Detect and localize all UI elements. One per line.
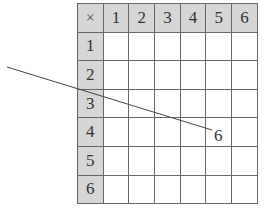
annotation-leader-line <box>0 0 269 216</box>
annotation-label: 6 <box>214 126 223 146</box>
